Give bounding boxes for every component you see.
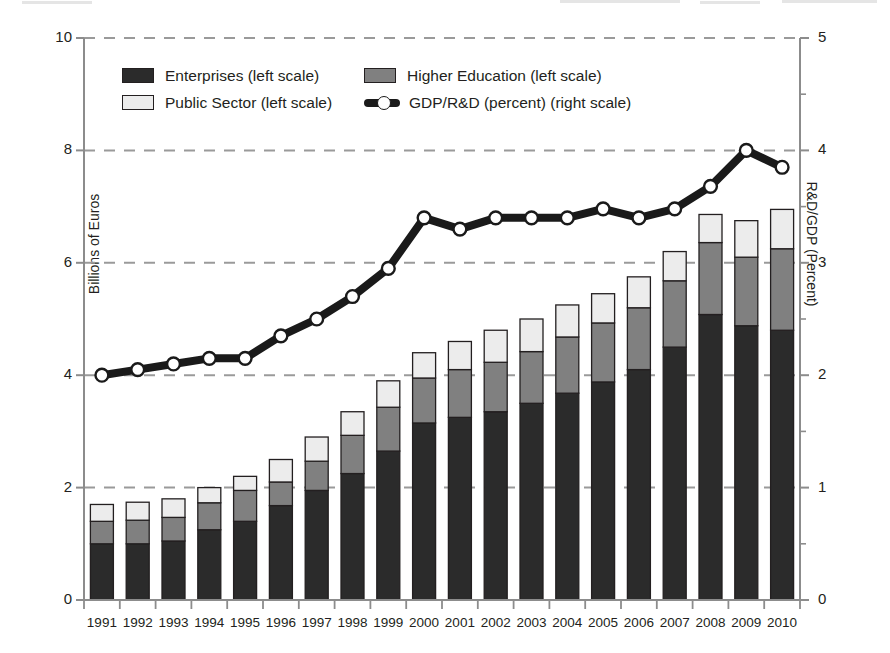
line-data-point <box>275 329 288 342</box>
bar-segment <box>484 330 507 362</box>
legend-item-public-sector: Public Sector (left scale) <box>122 94 364 112</box>
line-data-point <box>96 369 109 382</box>
bar-segment <box>448 370 471 418</box>
legend-row-2: Public Sector (left scale) GDP/R&D (perc… <box>122 89 631 116</box>
bar-segment <box>448 341 471 369</box>
bar-segment <box>126 520 149 544</box>
bar-segment <box>198 503 221 530</box>
bar-segment <box>198 488 221 503</box>
line-data-point <box>203 352 216 365</box>
bar-segment <box>162 517 185 541</box>
bar-segment <box>592 382 615 600</box>
y-axis-left-tick: 8 <box>42 140 72 157</box>
bar-series-group <box>90 209 793 600</box>
bar-segment <box>305 490 328 600</box>
line-data-point <box>418 211 431 224</box>
bar-segment <box>377 407 400 451</box>
y-axis-left-tick: 10 <box>42 28 72 45</box>
bar-segment <box>663 252 686 281</box>
bar-segment <box>269 460 292 482</box>
y-axis-left-tick: 4 <box>42 365 72 382</box>
bar-segment <box>162 499 185 518</box>
bar-segment <box>556 337 579 393</box>
line-data-point <box>167 358 180 371</box>
line-data-point <box>382 262 395 275</box>
line-data-point <box>454 223 467 236</box>
y-axis-left-tick: 6 <box>42 253 72 270</box>
y-axis-left-tick: 0 <box>42 590 72 607</box>
bar-segment <box>377 381 400 407</box>
line-data-point <box>239 352 252 365</box>
bar-segment <box>484 362 507 411</box>
bar-segment <box>699 214 722 242</box>
y-axis-right-tick: 3 <box>818 253 848 270</box>
line-data-point <box>489 211 502 224</box>
bar-segment <box>520 319 543 352</box>
bar-segment <box>627 277 650 308</box>
bar-segment <box>699 315 722 600</box>
bar-segment <box>771 330 794 600</box>
bar-segment <box>341 412 364 436</box>
bar-segment <box>413 423 436 600</box>
bar-segment <box>234 476 257 490</box>
bar-segment <box>413 353 436 378</box>
line-data-point <box>668 202 681 215</box>
x-axis-tick: 2010 <box>759 615 805 630</box>
y-axis-right-tick: 1 <box>818 478 848 495</box>
chart-legend: Enterprises (left scale) Higher Educatio… <box>122 62 631 116</box>
bar-segment <box>305 437 328 461</box>
bar-segment <box>90 504 113 521</box>
legend-label-gdp-rd: GDP/R&D (percent) (right scale) <box>409 94 631 112</box>
line-data-point <box>704 180 717 193</box>
bar-segment <box>771 249 794 330</box>
bar-segment <box>305 461 328 490</box>
line-data-point <box>346 290 359 303</box>
gdp-rd-line-marker <box>364 95 400 111</box>
bar-segment <box>448 417 471 600</box>
bar-segment <box>592 323 615 382</box>
legend-label-public-sector: Public Sector (left scale) <box>165 94 332 112</box>
line-data-point <box>776 161 789 174</box>
bar-segment <box>699 243 722 315</box>
bar-segment <box>627 308 650 370</box>
line-data-point <box>740 144 753 157</box>
y-axis-right-tick: 4 <box>818 140 848 157</box>
y-axis-right-tick: 2 <box>818 365 848 382</box>
y-axis-right-tick: 5 <box>818 28 848 45</box>
bar-segment <box>90 544 113 600</box>
bar-segment <box>520 352 543 404</box>
bar-segment <box>592 294 615 323</box>
legend-row-1: Enterprises (left scale) Higher Educatio… <box>122 62 631 89</box>
bar-segment <box>90 521 113 543</box>
bar-segment <box>735 326 758 600</box>
public-sector-swatch <box>122 95 154 110</box>
line-data-point <box>310 313 323 326</box>
enterprises-swatch <box>122 68 154 83</box>
y-axis-right-tick: 0 <box>818 590 848 607</box>
bar-segment <box>341 435 364 473</box>
y-axis-left-tick: 2 <box>42 478 72 495</box>
bar-segment <box>556 305 579 337</box>
bar-segment <box>126 502 149 520</box>
bar-segment <box>234 490 257 521</box>
bar-segment <box>198 530 221 600</box>
legend-label-enterprises: Enterprises (left scale) <box>165 67 319 85</box>
bar-segment <box>162 541 185 600</box>
bar-segment <box>627 370 650 600</box>
bar-segment <box>234 521 257 600</box>
bar-segment <box>663 281 686 347</box>
bar-segment <box>377 451 400 600</box>
bar-segment <box>520 403 543 600</box>
bar-segment <box>269 506 292 600</box>
bar-segment <box>413 378 436 423</box>
bar-segment <box>735 257 758 326</box>
bar-segment <box>663 347 686 600</box>
bar-segment <box>341 474 364 600</box>
higher-education-swatch <box>364 68 396 83</box>
legend-item-higher-education: Higher Education (left scale) <box>364 67 602 85</box>
bar-segment <box>735 221 758 258</box>
line-data-point <box>525 211 538 224</box>
legend-label-higher-education: Higher Education (left scale) <box>407 67 602 85</box>
bar-segment <box>269 482 292 506</box>
line-data-point <box>597 202 610 215</box>
